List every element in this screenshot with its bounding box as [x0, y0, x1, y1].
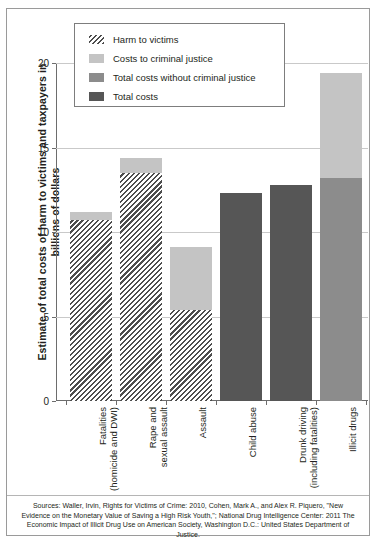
x-tick-mark-4: [266, 401, 267, 405]
bar-5[interactable]: [270, 63, 312, 401]
legend-item-1: Harm to victims: [89, 30, 284, 49]
x-axis-label-4: Child abuse: [247, 407, 258, 503]
x-tick-mark-5: [316, 401, 317, 405]
bar-segment-criminal_justice: [70, 212, 112, 220]
chart-frame: Estimate of total costs of harm to victi…: [6, 8, 370, 536]
legend-swatch-total: [89, 92, 104, 101]
x-tick-mark-3: [216, 401, 217, 405]
x-axis-label-3: Assault: [197, 407, 208, 503]
bar-segment-harm: [70, 220, 112, 401]
bar-segment-harm: [170, 310, 212, 401]
y-tick-label-0: 0: [43, 396, 49, 407]
bar-2[interactable]: [120, 63, 162, 401]
bar-segment-total: [270, 185, 312, 401]
y-tick-label-20: 20: [38, 58, 49, 69]
x-axis-label-6: Illicit drugs: [347, 407, 358, 503]
y-tick-mark-20: [52, 63, 56, 64]
y-tick-mark-5: [52, 317, 56, 318]
legend-item-2: Costs to criminal justice: [89, 49, 284, 68]
legend-swatch-cj: [89, 54, 104, 63]
y-tick-label-5: 5: [43, 311, 49, 322]
x-axis-label-2: Rape and sexual assault: [147, 407, 169, 503]
bar-segment-criminal_justice: [320, 73, 362, 178]
x-tick-mark-2: [166, 401, 167, 405]
legend-label-1: Harm to victims: [113, 34, 178, 45]
plot-area: 05101520: [56, 63, 368, 401]
bar-segment-total: [220, 193, 262, 401]
bar-4[interactable]: [220, 63, 262, 401]
x-axis-label-5: Drunk driving (including fatalities): [297, 407, 319, 503]
y-tick-mark-0: [52, 401, 56, 402]
bar-segment-harm: [120, 173, 162, 401]
bar-1[interactable]: [70, 63, 112, 401]
x-tick-mark-1: [116, 401, 117, 405]
y-tick-mark-10: [52, 232, 56, 233]
chart-legend: Harm to victimsCosts to criminal justice…: [74, 23, 285, 107]
legend-label-4: Total costs: [113, 91, 158, 102]
y-tick-label-10: 10: [38, 227, 49, 238]
legend-swatch-hatch: [89, 35, 104, 44]
legend-label-2: Costs to criminal justice: [113, 53, 213, 64]
legend-item-3: Total costs without criminal justice: [89, 68, 284, 87]
bar-segment-total_without_cj: [320, 178, 362, 401]
bar-segment-criminal_justice: [170, 247, 212, 310]
x-axis-label-1: Fatalities (homicide and DWI): [97, 407, 119, 503]
x-tick-mark-0: [66, 401, 67, 405]
bar-3[interactable]: [170, 63, 212, 401]
x-tick-mark-6: [366, 401, 367, 405]
source-divider: [7, 495, 369, 496]
y-tick-mark-15: [52, 148, 56, 149]
legend-label-3: Total costs without criminal justice: [113, 72, 256, 83]
source-note: Sources: Waller, Irvin, Rights for Victi…: [21, 501, 355, 539]
bar-segment-criminal_justice: [120, 158, 162, 173]
bar-6[interactable]: [320, 63, 362, 401]
legend-item-4: Total costs: [89, 87, 284, 106]
y-tick-label-15: 15: [38, 142, 49, 153]
legend-swatch-nocj: [89, 73, 104, 82]
